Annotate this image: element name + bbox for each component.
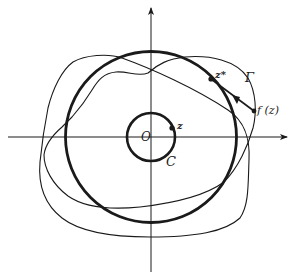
diagram-canvas: O z z* f (z) C Γ <box>0 0 296 279</box>
origin-label: O <box>141 131 151 143</box>
point-z-star-label: z* <box>215 70 226 80</box>
point-z-star <box>208 76 213 81</box>
curve-gamma-label: Γ <box>245 71 254 84</box>
point-z <box>169 125 174 130</box>
point-fz-label: f (z) <box>257 105 279 116</box>
circle-c-label: C <box>166 155 176 168</box>
point-fz <box>252 109 257 114</box>
arrow-head-icon <box>232 95 240 104</box>
point-z-label: z <box>177 121 183 131</box>
